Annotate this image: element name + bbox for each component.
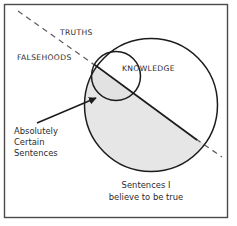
label-truths: TRUTHS <box>59 28 93 37</box>
venn-diagram-figure: TRUTHS FALSEHOODS KNOWLEDGE Absolutely C… <box>0 0 237 226</box>
label-falsehoods: FALSEHOODS <box>17 53 72 62</box>
label-believed-line1: Sentences I <box>122 180 171 190</box>
label-knowledge: KNOWLEDGE <box>122 64 175 73</box>
venn-diagram-canvas: TRUTHS FALSEHOODS KNOWLEDGE Absolutely C… <box>0 0 237 226</box>
label-absolutely-certain-line3: Sentences <box>14 148 58 158</box>
label-absolutely-certain-line2: Certain <box>14 137 45 147</box>
label-believed-line2: believe to be true <box>109 192 183 202</box>
label-absolutely-certain-line1: Absolutely <box>14 126 58 136</box>
